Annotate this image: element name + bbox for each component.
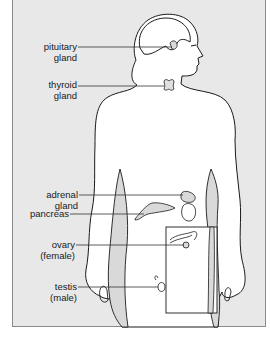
label-testis: testis (male)	[50, 282, 77, 303]
label-thyroid-gland: thyroid gland	[48, 80, 77, 101]
thyroid-gland-shape	[164, 80, 174, 91]
body-figure	[0, 0, 270, 338]
kidney-shape	[182, 204, 196, 222]
label-pituitary-gland: pituitary gland	[44, 42, 77, 63]
testis-shape	[158, 283, 165, 292]
label-ovary: ovary (female)	[40, 240, 75, 261]
label-pancreas: pancreas	[30, 209, 69, 220]
